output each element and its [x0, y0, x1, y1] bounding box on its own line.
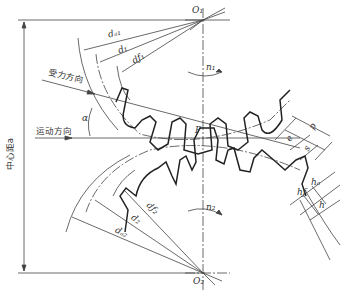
n2-label: n₂ [206, 203, 215, 212]
da2-line [72, 217, 203, 273]
da1-line [84, 20, 203, 50]
arrow-up-icon [22, 22, 26, 28]
arrow-down-icon [22, 265, 26, 271]
o2-label: O₂ [193, 277, 204, 286]
gear-mesh-drawing [0, 0, 342, 305]
hf-label: hƒ [297, 188, 306, 197]
ha-label: hₐ [311, 178, 320, 187]
arrow-right-icon [65, 136, 72, 140]
n1-label: n₁ [206, 63, 215, 72]
n1-rotation-arrow [188, 72, 222, 76]
center-distance-label: 中心距a [6, 138, 15, 170]
df2-line [124, 190, 203, 273]
d1-line [100, 20, 203, 62]
lower-gear-teeth [120, 128, 308, 232]
alpha-arc [88, 108, 92, 136]
pitch-point-label: P [195, 126, 201, 135]
o1-label: O₁ [192, 6, 203, 15]
tip-circle-2 [66, 155, 130, 232]
motion-direction-label: 运动方向 [36, 127, 72, 136]
h-label: h [319, 201, 325, 210]
alpha-label: α [82, 114, 88, 123]
